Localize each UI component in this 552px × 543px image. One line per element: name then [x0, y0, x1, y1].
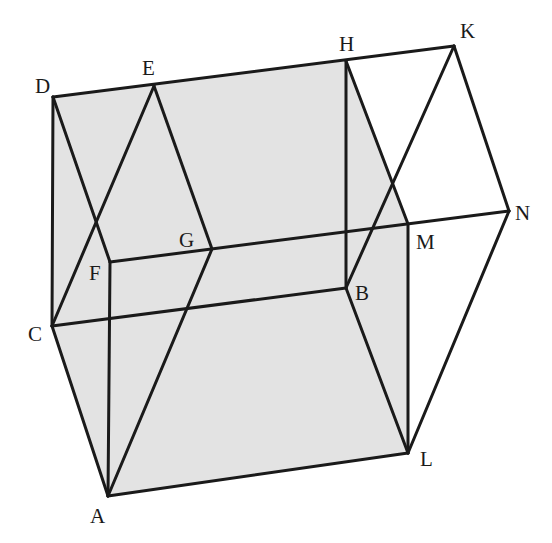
edge-dc [52, 97, 53, 326]
vertex-label-b: B [355, 281, 369, 305]
vertex-label-d: D [35, 74, 50, 98]
vertex-label-e: E [142, 56, 155, 80]
shaded-face [52, 61, 408, 496]
vertex-label-f: F [89, 261, 101, 285]
vertex-label-l: L [420, 447, 433, 471]
vertex-label-a: A [90, 504, 106, 528]
vertex-label-h: H [339, 32, 354, 56]
edge-fa [108, 262, 110, 496]
geometry-diagram: ABCDEFGHKLMN [0, 0, 552, 543]
vertex-label-c: C [28, 322, 42, 346]
vertex-label-k: K [460, 19, 475, 43]
edge-nk [454, 46, 509, 211]
vertex-label-g: G [179, 228, 194, 252]
vertex-label-m: M [416, 230, 435, 254]
vertex-label-n: N [515, 201, 530, 225]
